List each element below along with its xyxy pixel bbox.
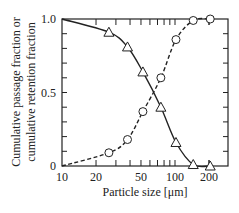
- y-axis-title-line2: cumulative retention fraction: [24, 22, 38, 161]
- circle-marker: [206, 15, 214, 23]
- x-tick-label: 10: [56, 170, 68, 184]
- x-axis-title: Particle size [μm]: [102, 185, 187, 199]
- circle-marker: [172, 36, 180, 44]
- retention-curve: [62, 19, 210, 167]
- y-tick-label: 0: [50, 159, 56, 173]
- circle-marker: [105, 149, 113, 157]
- y-tick-label: 1.0: [41, 12, 56, 26]
- x-tick-label: 200: [200, 170, 218, 184]
- circle-marker: [139, 108, 147, 116]
- passage-curve: [62, 19, 210, 166]
- circle-marker: [157, 74, 165, 82]
- x-tick-label: 20: [90, 170, 102, 184]
- plot-frame: [62, 19, 228, 166]
- triangle-marker: [138, 67, 148, 76]
- triangle-marker: [171, 137, 181, 146]
- particle-size-chart: 10205010020000.51.0 Particle size [μm] C…: [0, 0, 239, 213]
- circle-marker: [189, 16, 197, 24]
- x-tick-label: 100: [166, 170, 184, 184]
- y-tick-label: 0.5: [41, 86, 56, 100]
- x-tick-label: 50: [135, 170, 147, 184]
- triangle-marker: [156, 102, 166, 111]
- y-axis-title-line1: Cumulative passage fraction or: [9, 17, 23, 167]
- circle-marker: [124, 136, 132, 144]
- triangle-marker: [104, 27, 114, 36]
